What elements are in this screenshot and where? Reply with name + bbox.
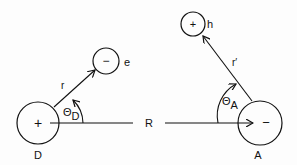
r-label: r (61, 80, 65, 91)
r-prime-label: r′ (232, 57, 237, 68)
donor-label: D (34, 149, 42, 161)
donor-sign: + (34, 115, 42, 131)
hole-label: h (207, 18, 213, 30)
acceptor-label: A (254, 149, 262, 161)
theta-d-symbol: ΘD (63, 106, 80, 122)
electron-sign: − (102, 54, 109, 68)
hole-sign: + (190, 18, 196, 30)
electron-label: e (124, 56, 130, 68)
donor-acceptor-diagram: + D − e r ΘD R − A + h r′ ΘA (0, 0, 297, 165)
R-label: R (145, 117, 153, 129)
r-prime-vector-arrow (203, 36, 252, 101)
hole-circle: + (181, 12, 205, 36)
diagram-canvas: + D − e r ΘD R − A + h r′ ΘA (0, 0, 297, 165)
acceptor-sign: − (262, 115, 270, 130)
theta-a-symbol: ΘA (222, 95, 239, 111)
electron-circle: − (93, 48, 119, 74)
